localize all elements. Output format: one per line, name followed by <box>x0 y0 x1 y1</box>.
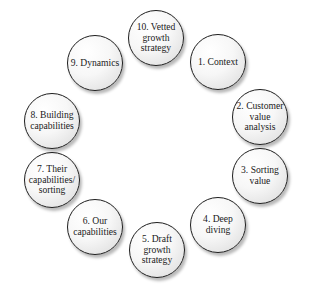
node-label: 9. Dynamics <box>71 58 120 69</box>
node-label: 8. Building capabilities <box>30 110 74 131</box>
node-3-sorting-value: 3. Sorting value <box>232 148 288 204</box>
node-label: 3. Sorting value <box>241 165 279 186</box>
node-5-draft-growth-strategy: 5. Draft growth strategy <box>129 222 185 278</box>
node-label: 2. Customer value analysis <box>237 101 284 133</box>
node-label: 4. Deep diving <box>203 214 233 235</box>
node-2-customer-value-analysis: 2. Customer value analysis <box>232 89 288 145</box>
node-label: 1. Context <box>198 57 238 68</box>
node-8-building-capabilities: 8. Building capabilities <box>24 93 80 149</box>
node-1-context: 1. Context <box>190 34 246 90</box>
node-label: 10. Vetted growth strategy <box>137 22 176 54</box>
node-6-our-capabilities: 6. Our capabilities <box>67 199 123 255</box>
node-7-their-capabilities-sorting: 7. Their capabilities/ sorting <box>24 152 80 208</box>
node-label: 7. Their capabilities/ sorting <box>29 164 75 196</box>
node-label: 6. Our capabilities <box>73 216 117 237</box>
node-9-dynamics: 9. Dynamics <box>67 35 123 91</box>
node-10-vetted-growth-strategy: 10. Vetted growth strategy <box>128 10 184 66</box>
node-4-deep-diving: 4. Deep diving <box>190 197 246 253</box>
node-label: 5. Draft growth strategy <box>142 234 172 266</box>
cycle-diagram: 10. Vetted growth strategy 1. Context 2.… <box>0 0 309 288</box>
